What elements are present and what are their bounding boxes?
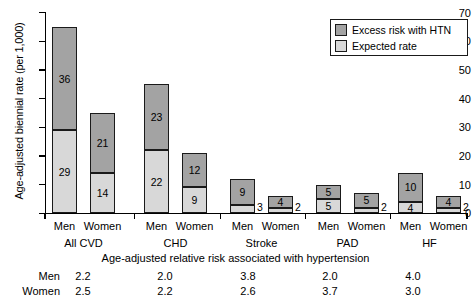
bar-segment-excess: 4 xyxy=(268,196,293,207)
bar-segment-excess: 21 xyxy=(90,113,115,173)
legend-swatch-expected-icon xyxy=(335,40,347,52)
x-axis-group-label: All CVD xyxy=(44,238,124,249)
annotation-table-cell: 2.6 xyxy=(228,286,268,297)
legend-label-excess: Excess risk with HTN xyxy=(352,24,451,36)
bar-segment-expected: 22 xyxy=(144,150,169,213)
annotation-table-cell: 2.0 xyxy=(310,271,350,282)
x-axis-group-label: Stroke xyxy=(222,238,302,249)
x-axis-sex-label: Women xyxy=(419,221,476,232)
bar-segment-expected: 9 xyxy=(182,187,207,213)
x-axis-sex-label: Women xyxy=(73,221,133,232)
x-axis-group-label: CHD xyxy=(136,238,216,249)
bar-value-label-expected: 9 xyxy=(183,195,206,205)
bar-value-label-excess: 23 xyxy=(145,112,168,122)
bar-value-label-excess: 12 xyxy=(183,165,206,175)
bar-value-label-expected-outside: 2 xyxy=(463,202,469,212)
annotation-table-row-label: Men xyxy=(0,271,60,282)
bar-value-label-excess: 9 xyxy=(231,187,254,197)
bar-value-label-excess: 4 xyxy=(269,197,292,207)
bar-segment-expected xyxy=(436,208,461,214)
bar-value-label-expected: 4 xyxy=(399,203,422,213)
bar-value-label-expected-outside: 3 xyxy=(257,202,263,212)
legend: Excess risk with HTN Expected rate xyxy=(330,19,468,56)
annotation-table-cell: 3.7 xyxy=(310,286,350,297)
bar-segment-excess: 12 xyxy=(182,153,207,187)
bar-segment-excess: 4 xyxy=(436,196,461,207)
bar-value-label-excess: 21 xyxy=(91,138,114,148)
bar-value-label-excess: 4 xyxy=(437,197,460,207)
bar-value-label-expected-outside: 2 xyxy=(381,202,387,212)
bar-segment-expected: 14 xyxy=(90,173,115,213)
bar-value-label-expected: 14 xyxy=(91,188,114,198)
bar-value-label-excess: 10 xyxy=(399,182,422,192)
annotation-table-cell: 4.0 xyxy=(393,271,433,282)
bar-segment-excess: 23 xyxy=(144,84,169,150)
annotation-table-cell: 2.2 xyxy=(63,271,103,282)
annotation-table-row-label: Women xyxy=(0,286,60,297)
bar-value-label-expected-outside: 2 xyxy=(295,202,301,212)
bar-segment-expected: 29 xyxy=(52,130,77,213)
bar-value-label-excess: 36 xyxy=(53,74,76,84)
bar-segment-expected: 4 xyxy=(398,202,423,213)
bar-value-label-excess: 5 xyxy=(317,187,340,197)
bar-value-label-expected: 22 xyxy=(145,177,168,187)
bar-segment-excess: 10 xyxy=(398,173,423,202)
x-axis-group-label: HF xyxy=(390,238,470,249)
annotation-table-cell: 2.0 xyxy=(145,271,185,282)
bar-segment-expected xyxy=(268,208,293,214)
legend-swatch-excess-icon xyxy=(335,24,347,36)
bar-segment-excess: 5 xyxy=(316,185,341,199)
bar-value-label-expected: 29 xyxy=(53,167,76,177)
bar-value-label-excess: 5 xyxy=(355,195,378,205)
bar-segment-excess: 36 xyxy=(52,27,77,130)
annotation-table-caption: Age-adjusted relative risk associated wi… xyxy=(0,253,471,264)
legend-label-expected: Expected rate xyxy=(352,40,417,52)
bar-segment-excess: 5 xyxy=(354,193,379,207)
annotation-table-cell: 2.2 xyxy=(145,286,185,297)
annotation-table-cell: 2.5 xyxy=(63,286,103,297)
annotation-table-cell: 3.0 xyxy=(393,286,433,297)
bar-segment-excess: 9 xyxy=(230,179,255,205)
bar-value-label-expected: 5 xyxy=(317,201,340,211)
annotation-table-cell: 3.8 xyxy=(228,271,268,282)
x-axis-group-label: PAD xyxy=(308,238,388,249)
bar-segment-expected: 5 xyxy=(316,199,341,213)
bar-segment-expected xyxy=(230,205,255,214)
bar-segment-expected xyxy=(354,208,379,214)
